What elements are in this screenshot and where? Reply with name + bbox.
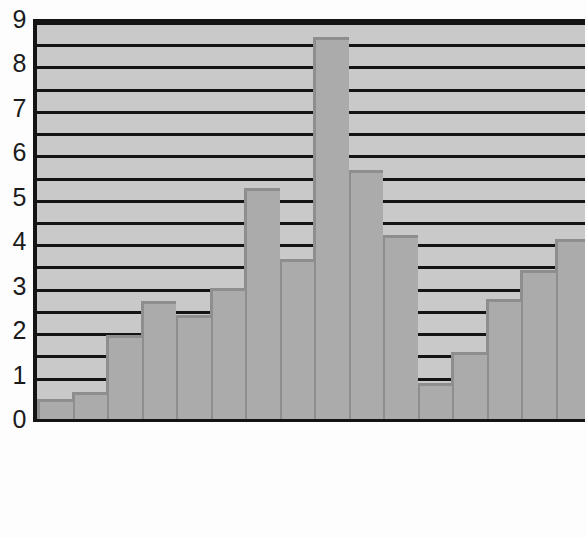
bar xyxy=(451,352,487,419)
bar xyxy=(141,301,177,419)
y-tick-label: 7 xyxy=(0,95,26,120)
y-tick-label: 5 xyxy=(0,184,26,209)
y-tick-label: 0 xyxy=(0,407,26,432)
bar xyxy=(72,392,108,419)
bar xyxy=(348,170,384,419)
bar xyxy=(313,37,349,419)
bar xyxy=(106,335,142,419)
bar xyxy=(520,270,556,419)
bar xyxy=(244,188,280,419)
y-tick-label: 8 xyxy=(0,51,26,76)
y-tick-label: 4 xyxy=(0,229,26,254)
y-tick-label: 2 xyxy=(0,318,26,343)
bar xyxy=(382,235,418,419)
bar xyxy=(175,315,211,419)
y-tick-label: 9 xyxy=(0,7,26,32)
y-tick-label: 3 xyxy=(0,273,26,298)
bar xyxy=(210,288,246,419)
bar xyxy=(37,399,73,419)
bar xyxy=(555,239,586,419)
bar xyxy=(486,299,522,419)
bar xyxy=(279,259,315,419)
plot-area xyxy=(33,19,585,419)
y-tick-label: 6 xyxy=(0,140,26,165)
y-tick-label: 1 xyxy=(0,362,26,387)
x-axis: 1821-18301831-18401841-18501851-18601861… xyxy=(33,426,585,538)
bar-chart: 0123456789 1821-18301831-18401841-185018… xyxy=(0,0,587,538)
bars-layer xyxy=(37,22,585,419)
y-axis: 0123456789 xyxy=(0,0,30,430)
x-axis-line xyxy=(33,419,585,422)
bar xyxy=(417,383,453,419)
